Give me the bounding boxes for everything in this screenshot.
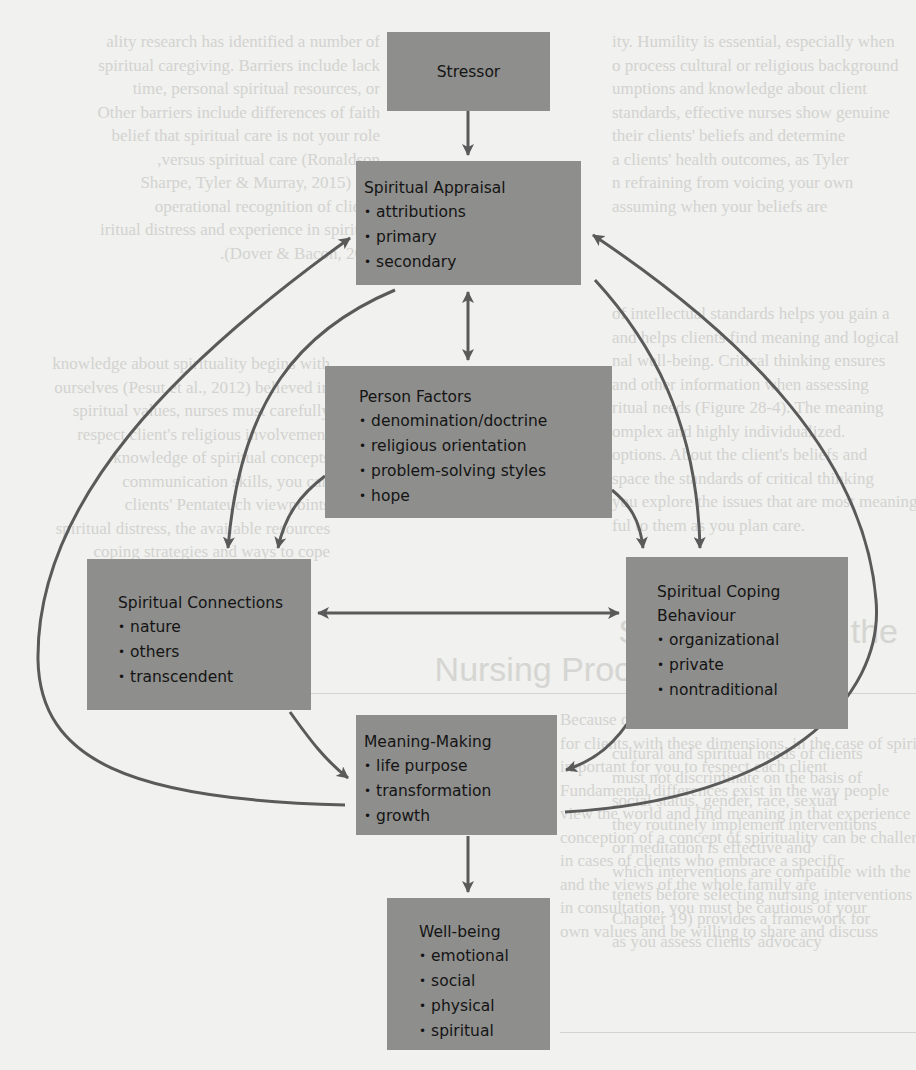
spiritual-coping-title-line1: Spiritual Coping (657, 580, 848, 604)
list-item: hope (359, 484, 612, 509)
spiritual-appraisal-list: attributions primary secondary (364, 200, 581, 275)
list-item: growth (364, 804, 557, 829)
spiritual-coping-list: organizational private nontraditional (657, 628, 848, 703)
arrow-connections-to-meaning (290, 712, 348, 778)
spiritual-appraisal-title: Spiritual Appraisal (364, 176, 581, 200)
list-item: spiritual (419, 1019, 550, 1044)
list-item: primary (364, 225, 581, 250)
box-spiritual-coping-behaviour: Spiritual Coping Behaviour organizationa… (626, 557, 848, 729)
list-item: organizational (657, 628, 848, 653)
person-factors-title: Person Factors (359, 385, 612, 409)
list-item: emotional (419, 944, 550, 969)
well-being-title: Well-being (419, 920, 550, 944)
list-item: religious orientation (359, 434, 612, 459)
meaning-making-title: Meaning-Making (364, 730, 557, 754)
list-item: problem-solving styles (359, 459, 612, 484)
list-item: secondary (364, 250, 581, 275)
person-factors-list: denomination/doctrine religious orientat… (359, 409, 612, 509)
spiritual-coping-title-line2: Behaviour (657, 604, 848, 628)
meaning-making-list: life purpose transformation growth (364, 754, 557, 829)
arrow-coping-to-meaning (566, 712, 635, 770)
box-spiritual-appraisal: Spiritual Appraisal attributions primary… (356, 161, 581, 285)
list-item: denomination/doctrine (359, 409, 612, 434)
list-item: life purpose (364, 754, 557, 779)
list-item: transcendent (118, 665, 311, 690)
list-item: nontraditional (657, 678, 848, 703)
stressor-title: Stressor (437, 60, 501, 84)
spiritual-connections-title: Spiritual Connections (118, 591, 311, 615)
box-stressor: Stressor (387, 32, 550, 111)
list-item: social (419, 969, 550, 994)
list-item: transformation (364, 779, 557, 804)
list-item: physical (419, 994, 550, 1019)
box-person-factors: Person Factors denomination/doctrine rel… (325, 366, 612, 518)
list-item: others (118, 640, 311, 665)
box-well-being: Well-being emotional social physical spi… (387, 898, 550, 1050)
spiritual-connections-list: nature others transcendent (118, 615, 311, 690)
list-item: attributions (364, 200, 581, 225)
list-item: private (657, 653, 848, 678)
well-being-list: emotional social physical spiritual (419, 944, 550, 1044)
arrow-feedback-left-loop (38, 238, 350, 805)
box-meaning-making: Meaning-Making life purpose transformati… (356, 715, 557, 835)
arrow-person-to-connections (278, 476, 325, 548)
arrow-person-to-coping (612, 490, 643, 548)
box-spiritual-connections: Spiritual Connections nature others tran… (87, 559, 311, 710)
list-item: nature (118, 615, 311, 640)
